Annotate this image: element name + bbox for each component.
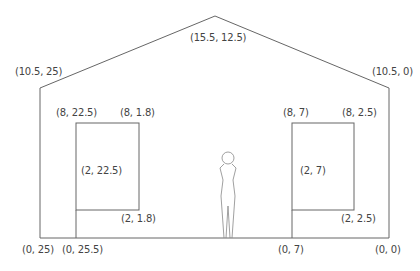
label-right-window-bottom-right: (2, 2.5)	[341, 214, 376, 224]
label-ground-right-window: (0, 7)	[278, 245, 304, 255]
label-ground-left-corner: (0, 25)	[22, 245, 54, 255]
label-ground-right-corner: (0, 0)	[375, 245, 401, 255]
label-ground-left-window: (0, 25.5)	[62, 245, 103, 255]
label-right-window-mid: (2, 7)	[300, 166, 326, 176]
label-left-window-mid: (2, 22.5)	[81, 166, 122, 176]
label-roof-apex: (15.5, 12.5)	[190, 33, 246, 43]
house-outline	[40, 16, 389, 238]
label-right-window-top-right: (8, 2.5)	[342, 108, 377, 118]
person-scale-icon	[220, 152, 236, 238]
label-eave-left: (10.5, 25)	[15, 67, 62, 77]
label-left-window-top-right: (8, 1.8)	[120, 108, 155, 118]
label-eave-right: (10.5, 0)	[372, 67, 413, 77]
label-left-window-top-left: (8, 22.5)	[56, 108, 97, 118]
label-left-window-bottom-right: (2, 1.8)	[121, 214, 156, 224]
label-right-window-top-left: (8, 7)	[283, 108, 309, 118]
